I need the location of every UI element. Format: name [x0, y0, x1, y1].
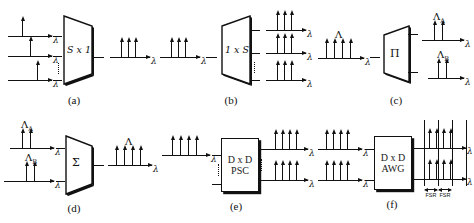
lambda-axis-label: λ: [55, 181, 61, 190]
spectral-line: [296, 163, 297, 180]
port-stub-out-3: [250, 80, 260, 81]
spectral-line: [340, 163, 341, 180]
spectral-line: [429, 162, 430, 179]
spectral-line: [277, 36, 278, 53]
panel-a-device-label: S x 1: [67, 44, 91, 55]
port-stub-out-1: [408, 34, 418, 35]
spectral-line: [277, 13, 278, 30]
spectral-line: [443, 162, 444, 179]
panel-a-caption: (a): [54, 94, 94, 106]
lambda-axis-label: λ: [309, 180, 315, 189]
spectral-line: [347, 163, 348, 180]
spectral-line: [277, 63, 278, 80]
port-stub-out-1: [250, 30, 260, 31]
port-stub-out-1: [92, 57, 104, 58]
wavelength-axis: [162, 155, 210, 156]
panel-c-device-label: Π: [390, 47, 400, 60]
spectral-line: [275, 132, 276, 149]
spectral-line: [450, 162, 451, 179]
wavelength-axis: [266, 53, 306, 54]
fsr-arrow-line: [439, 189, 451, 190]
spectral-line: [124, 148, 125, 165]
spectral-line: [350, 41, 351, 58]
port-stub-in-3: [53, 80, 62, 81]
lambda-set-label-a: ΛA: [433, 12, 445, 25]
panel-b-device-splitter[interactable]: 1 x S: [216, 14, 256, 82]
spectral-line: [188, 138, 189, 155]
panel-a-device-combiner[interactable]: S x 1: [60, 14, 100, 82]
panel-c: Λ λ Π ΛA λ ΛB λ (c): [316, 0, 474, 112]
spectral-line: [289, 132, 290, 149]
fsr-gridline: [424, 120, 425, 186]
lambda-axis-label: λ: [309, 149, 315, 158]
panel-b: λ 1 x S λ λ λ (b): [158, 0, 316, 112]
spectral-line: [132, 148, 133, 165]
spectral-line: [22, 19, 23, 36]
spectral-line: [116, 148, 117, 165]
lambda-axis-label: λ: [465, 78, 471, 87]
spectral-line: [326, 132, 327, 149]
panel-e-caption: (e): [216, 200, 256, 212]
spectral-line: [289, 163, 290, 180]
panel-d-caption: (d): [54, 202, 94, 214]
wavelength-axis: [266, 30, 306, 31]
spectral-line: [282, 132, 283, 149]
spectral-line: [22, 131, 23, 148]
fsr-label: FSR: [438, 192, 452, 198]
spectral-line: [121, 40, 122, 57]
wavelength-axis: [318, 180, 362, 181]
spectral-line: [436, 162, 437, 179]
lambda-set-label-b: ΛB: [437, 50, 449, 63]
spectral-line: [333, 163, 334, 180]
panel-b-device-label: 1 x S: [225, 44, 249, 55]
spectral-line: [172, 138, 173, 155]
wavelength-axis: [10, 148, 54, 149]
spectral-line: [282, 163, 283, 180]
wavelength-axis: [420, 179, 466, 180]
wavelength-axis: [108, 165, 152, 166]
spectral-line: [326, 163, 327, 180]
lambda-axis-label: λ: [211, 155, 217, 164]
lambda-axis-label: λ: [307, 53, 313, 62]
lambda-set-label: Λ: [335, 30, 342, 40]
spectral-line: [291, 63, 292, 80]
spectral-line: [443, 131, 444, 148]
panel-e-device-psc[interactable]: D x D PSC: [221, 138, 259, 192]
lambda-axis-label: λ: [55, 148, 61, 157]
lambda-axis-label: λ: [307, 80, 313, 89]
panel-d-device-label: Σ: [72, 156, 80, 169]
fsr-arrow-line: [425, 189, 437, 190]
panel-f: λ λ D x D AWG λ λ FSR: [316, 112, 474, 223]
lambda-set-label: Λ: [125, 137, 132, 147]
lambda-axis-label: λ: [53, 80, 59, 89]
wavelength-axis: [318, 149, 362, 150]
wavelength-axis: [4, 181, 54, 182]
panel-e-device-label-line1: D x D: [228, 154, 252, 165]
lambda-axis-label: λ: [53, 36, 59, 45]
spectral-line: [30, 131, 31, 148]
panel-c-device-demux[interactable]: Π: [379, 24, 415, 84]
wavelength-axis: [318, 58, 364, 59]
wavelength-axis: [110, 57, 150, 58]
wavelength-axis: [422, 40, 464, 41]
spectral-line: [284, 13, 285, 30]
spectral-line: [178, 40, 179, 57]
fsr-label: FSR: [424, 192, 438, 198]
port-stub-out-2: [258, 180, 268, 181]
panel-f-device-awg[interactable]: D x D AWG: [374, 136, 412, 190]
wavelength-axis: [8, 56, 52, 57]
port-stub-out-1: [92, 165, 104, 166]
spectral-line: [296, 132, 297, 149]
wavelength-axis: [268, 180, 308, 181]
port-ellipsis: [58, 63, 59, 74]
spectral-line: [128, 40, 129, 57]
lambda-axis-label: λ: [201, 57, 207, 66]
spectral-line: [171, 40, 172, 57]
spectral-line: [450, 131, 451, 148]
wavelength-axis: [268, 149, 308, 150]
spectral-line: [196, 138, 197, 155]
panel-f-caption: (f): [372, 198, 412, 210]
spectral-line: [334, 41, 335, 58]
lambda-axis-label: λ: [467, 178, 473, 187]
panel-d-device-mux[interactable]: Σ: [62, 134, 100, 194]
